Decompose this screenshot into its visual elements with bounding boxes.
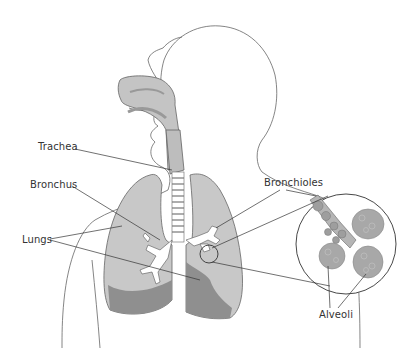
- label-lungs: Lungs: [22, 235, 52, 245]
- label-alveoli: Alveoli: [319, 310, 353, 320]
- leader-trachea: [75, 149, 172, 170]
- label-trachea: Trachea: [38, 142, 78, 152]
- trachea: [166, 130, 184, 242]
- label-bronchus: Bronchus: [30, 180, 77, 190]
- respiratory-diagram: [0, 0, 414, 348]
- left-lung: [104, 174, 172, 314]
- right-lung: [186, 174, 243, 319]
- alveoli-inset: [296, 194, 396, 294]
- label-bronchioles: Bronchioles: [264, 178, 323, 188]
